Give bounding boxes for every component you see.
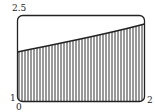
shaded-region (17, 24, 145, 103)
y-min-label: 0 (16, 103, 22, 112)
x-max-label: 2 (147, 96, 153, 105)
x-min-label: 1 (10, 94, 16, 103)
y-max-label: 2.5 (12, 4, 26, 13)
area-diagram (0, 0, 155, 112)
